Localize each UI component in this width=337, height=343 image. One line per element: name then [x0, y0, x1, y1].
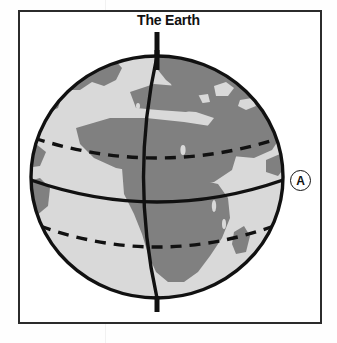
lake-detail-2	[212, 200, 216, 212]
label-a-badge: A	[290, 170, 311, 191]
lake-detail-1	[180, 145, 185, 155]
lake-detail-3	[222, 219, 226, 229]
globe-stage	[18, 10, 322, 324]
earth-globe-svg	[18, 10, 322, 324]
label-a-text: A	[296, 174, 305, 186]
lake-detail-4	[136, 103, 140, 109]
